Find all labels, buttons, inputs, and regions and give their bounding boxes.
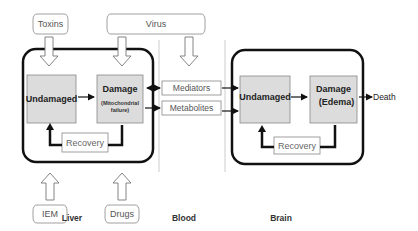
brain-damage-label: Damage	[316, 84, 351, 95]
liver-damage-sub-2: failure)	[111, 107, 129, 114]
toxins-label: Toxins	[33, 14, 68, 34]
death-label: Death	[373, 91, 407, 103]
liver-recovery-line-right	[108, 125, 122, 145]
metabolites-label: Metabolites	[162, 101, 221, 115]
drugs-arrow-icon	[113, 173, 131, 200]
liver-damage-label: Damage	[102, 84, 137, 95]
liver-recovery-label: Recovery	[62, 133, 108, 152]
liver-recovery-arrowhead-icon	[46, 123, 54, 130]
liver-undamaged-label: Undamaged	[27, 75, 76, 123]
brain-organ-label: Brain	[265, 212, 297, 224]
brain-recovery-arrowhead-icon	[258, 125, 266, 132]
toxins-arrow-icon	[40, 37, 58, 66]
blood-organ-label: Blood	[168, 212, 200, 224]
brain-recovery-label: Recovery	[274, 137, 320, 154]
brain-damage-sub: (Edema)	[313, 97, 355, 108]
iem-arrow-icon	[41, 173, 59, 200]
brain-recovery-line-left	[262, 130, 274, 147]
liver-damage-label-group: Damage (Mitochondrial failure)	[97, 79, 143, 119]
brain-damage-label-group: Damage (Edema)	[310, 84, 357, 116]
liver-organ-label: Liver	[56, 212, 88, 224]
brain-recovery-line-right	[320, 125, 335, 147]
virus-label: Virus	[107, 14, 205, 34]
virus-liver-arrow-icon	[113, 37, 131, 66]
virus-blood-arrow-icon	[180, 37, 198, 66]
liver-recovery-line-left	[50, 128, 62, 145]
liver-damage-sub-1: (Mitochondrial	[101, 100, 139, 107]
drugs-label: Drugs	[105, 205, 139, 223]
mediators-label: Mediators	[162, 81, 221, 95]
brain-undamaged-label: Undamaged	[238, 76, 292, 118]
